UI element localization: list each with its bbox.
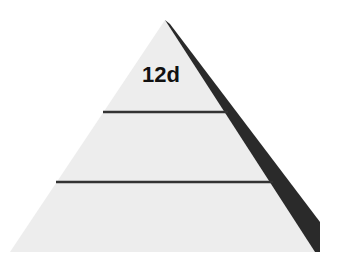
pyramid-face bbox=[10, 20, 315, 252]
top-tier-label: 12d bbox=[142, 62, 180, 87]
pyramid-diagram: 12d bbox=[0, 0, 340, 263]
